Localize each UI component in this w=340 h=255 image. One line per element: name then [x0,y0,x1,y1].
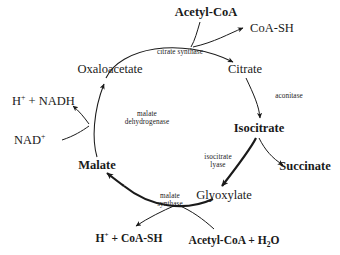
label-malate: Malate [78,159,115,173]
label-enzyme-citrate-synthase: citrate synthase [157,49,203,57]
label-enzyme-malate-synthase: malate synthase [157,192,183,209]
acetylcoa-h2o-pre: Acetyl-CoA + H [189,234,267,246]
label-coa-sh-top: CoA-SH [250,22,294,36]
acetylcoa-h2o-post: O [270,234,279,246]
label-isocitrate: Isocitrate [234,122,285,136]
label-acetyl-coa-h2o-bottom: Acetyl-CoA + H2O [189,234,280,246]
h-coash-rest: + CoA-SH [109,232,163,244]
h-nadh-h: H [12,94,21,108]
label-enzyme-malate-dehydrogenase: malate dehydrogenase [125,110,169,127]
malate-synthase-line2: synthase [157,200,183,208]
nad-charge: + [41,132,45,141]
label-acetyl-coa-top: Acetyl-CoA [175,6,237,20]
diagram-arrows-layer [0,0,340,255]
label-nad-plus: NAD+ [14,134,45,148]
label-enzyme-isocitrate-lyase: isocitrate lyase [204,153,231,170]
arrow-citrate-to-isocitrate [246,78,260,118]
label-h-nadh: H+ + NADH [12,95,75,109]
isocitrate-lyase-line2: lyase [204,161,231,169]
arrow-malate-to-oxaloacetate [94,84,104,157]
h-nadh-rest: + NADH [25,94,74,108]
label-glyoxylate: Glyoxylate [196,189,252,203]
arrow-acetylcoa-h2o-into-arc [178,205,214,229]
arrow-into-malate [107,173,124,186]
nad-text: NAD [14,133,41,147]
h-coash-h: H [96,232,105,244]
isocitrate-lyase-line1: isocitrate [204,153,231,161]
glyoxylate-cycle-diagram: Acetyl-CoA CoA-SH citrate synthase Oxalo… [0,0,340,255]
arrow-nadplus-into-arc [62,126,89,140]
label-citrate: Citrate [228,63,262,77]
arrow-arc-to-h-nadh [73,106,89,124]
malate-dehydrogenase-line1: malate [125,110,169,118]
malate-synthase-line1: malate [157,192,183,200]
malate-dehydrogenase-line2: dehydrogenase [125,118,169,126]
arrow-arc-to-coash [193,28,243,47]
arrow-acetylcoa-into-arc [191,22,200,47]
label-h-coash-bottom: H+ + CoA-SH [96,232,163,244]
label-succinate: Succinate [279,160,330,174]
label-oxaloacetate: Oxaloacetate [77,63,142,77]
label-enzyme-aconitase: aconitase [275,93,303,101]
